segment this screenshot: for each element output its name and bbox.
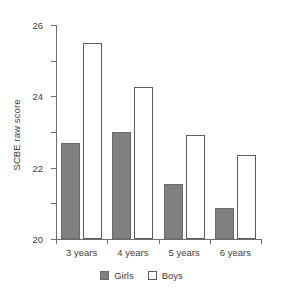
y-tick: 26: [51, 25, 56, 26]
x-tick: [261, 239, 262, 244]
y-tick: 22: [51, 96, 56, 97]
y-tick-label: 24: [32, 91, 43, 102]
legend-item-girls: Girls: [100, 270, 134, 281]
y-tick: 24: [51, 61, 56, 62]
bar-chart: SCBE raw score 14161820222426 3 years4 y…: [0, 0, 283, 295]
x-tick: [159, 239, 160, 244]
bar-boys-6-years: [237, 155, 256, 239]
legend-swatch-girls-icon: [100, 271, 109, 280]
y-axis-line: [56, 25, 57, 239]
x-tick: [210, 239, 211, 244]
y-tick: 20: [51, 132, 56, 133]
x-tick-label: 4 years: [117, 247, 148, 258]
x-tick-label: 6 years: [220, 247, 251, 258]
bar-girls-6-years: [215, 208, 234, 239]
bar-boys-5-years: [186, 135, 205, 239]
bar-girls-4-years: [112, 132, 131, 239]
x-tick-label: 3 years: [66, 247, 97, 258]
bar-boys-3-years: [83, 43, 102, 239]
y-tick-label: 22: [32, 162, 43, 173]
legend-swatch-boys-icon: [148, 271, 157, 280]
y-tick-label: 20: [32, 234, 43, 245]
y-tick: 16: [51, 203, 56, 204]
x-tick-label: 5 years: [169, 247, 200, 258]
y-tick: 18: [51, 168, 56, 169]
bar-girls-5-years: [164, 184, 183, 239]
chart-legend: Girls Boys: [0, 270, 283, 281]
y-axis-title: SCBE raw score: [6, 60, 26, 210]
legend-item-boys: Boys: [148, 270, 183, 281]
bar-girls-3-years: [61, 143, 80, 239]
x-tick: [56, 239, 57, 244]
y-tick-label: 26: [32, 20, 43, 31]
bar-boys-4-years: [134, 87, 153, 239]
x-tick: [107, 239, 108, 244]
plot-area: 14161820222426 3 years4 years5 years6 ye…: [56, 25, 261, 239]
legend-label-girls: Girls: [114, 270, 134, 281]
y-axis-title-text: SCBE raw score: [11, 99, 22, 170]
legend-label-boys: Boys: [162, 270, 183, 281]
